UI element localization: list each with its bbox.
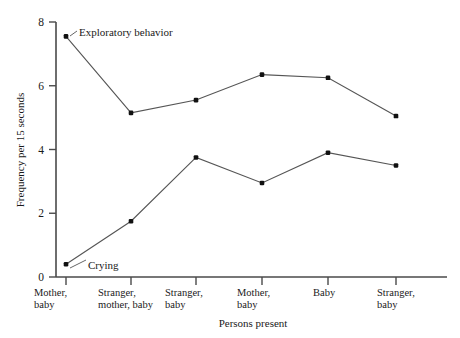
line-chart: 8 6 4 2 0 Mother, baby Stranger, mother,…: [0, 0, 460, 338]
series-line: [66, 153, 396, 265]
x-tick-label-1-line1: Stranger,: [98, 287, 136, 298]
data-point: [64, 34, 69, 39]
x-tick-label-2-line2: baby: [165, 299, 186, 310]
x-tick-label-5-line1: Stranger,: [377, 287, 415, 298]
data-point: [64, 262, 69, 267]
y-tick-label-8: 8: [38, 16, 44, 28]
data-point: [194, 155, 199, 160]
data-point: [260, 72, 265, 77]
series-crying: [64, 150, 399, 266]
x-tick-label-5-line2: baby: [377, 299, 398, 310]
exploratory-leader-line: [70, 31, 77, 36]
y-axis-title: Frequency per 15 seconds: [14, 93, 26, 208]
x-tick-marks: [66, 277, 396, 285]
crying-leader-line: [70, 260, 86, 268]
data-point: [260, 181, 265, 186]
annotation-exploratory-behavior: Exploratory behavior: [70, 26, 173, 38]
y-tick-label-0: 0: [38, 271, 44, 283]
y-tick-label-4: 4: [38, 144, 44, 156]
series-exploratory-behavior: [64, 34, 399, 118]
y-tick-label-2: 2: [38, 207, 44, 219]
annotation-crying: Crying: [70, 259, 119, 271]
data-point: [326, 150, 331, 155]
annotation-label-exploratory: Exploratory behavior: [79, 26, 173, 38]
y-tick-label-6: 6: [38, 80, 44, 92]
series-layer: [64, 34, 399, 267]
data-point: [326, 75, 331, 80]
x-tick-label-4-line1: Baby: [313, 287, 336, 298]
data-point: [394, 114, 399, 119]
x-axis-title: Persons present: [219, 317, 288, 329]
x-tick-labels: Mother, baby Stranger, mother, baby Stra…: [34, 287, 415, 310]
y-tick-marks: [49, 22, 56, 277]
x-tick-label-0-line1: Mother,: [34, 287, 67, 298]
x-tick-label-0-line2: baby: [34, 299, 55, 310]
x-tick-label-3-line1: Mother,: [237, 287, 270, 298]
data-point: [129, 219, 134, 224]
annotation-label-crying: Crying: [88, 259, 119, 271]
data-point: [194, 98, 199, 103]
x-tick-label-3-line2: baby: [237, 299, 258, 310]
data-point: [129, 111, 134, 116]
chart-canvas: 8 6 4 2 0 Mother, baby Stranger, mother,…: [0, 0, 460, 338]
data-point: [394, 163, 399, 168]
series-line: [66, 36, 396, 116]
x-tick-label-2-line1: Stranger,: [165, 287, 203, 298]
x-tick-label-1-line2: mother, baby: [98, 299, 154, 310]
